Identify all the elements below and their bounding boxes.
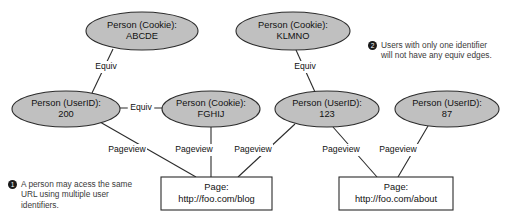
person-node-userid-87[interactable]: Person (UserID):87 [395, 91, 499, 127]
edge-label-pageview-87-about: Pageview [379, 144, 417, 154]
footnote-2: 2 Users with only one identifier will no… [368, 40, 496, 61]
footnote-1-marker: 1 [8, 180, 17, 189]
edge-label-equiv-abcde-200: Equiv [95, 61, 117, 71]
person-node-userid-200[interactable]: Person (UserID):200 [12, 91, 120, 127]
node-label-value: FGHIJ [198, 109, 225, 119]
footnote-1: 1 A person may acess the same URL using … [8, 179, 140, 210]
node-label-value: 200 [58, 109, 74, 119]
page-label-url: http://foo.com/blog [178, 194, 255, 204]
edge-label-pageview-200-blog: Pageview [108, 144, 146, 154]
footnote-2-marker: 2 [368, 41, 377, 50]
page-node-page-about[interactable]: Page:http://foo.com/about [339, 177, 453, 210]
person-node-cookie-klmno[interactable]: Person (Cookie):KLMNO [236, 12, 350, 50]
person-node-cookie-fghij[interactable]: Person (Cookie):FGHIJ [162, 91, 260, 127]
person-node-cookie-abcde[interactable]: Person (Cookie):ABCDE [86, 12, 198, 50]
footnote-2-text: Users with only one identifier will not … [381, 40, 496, 61]
node-label-type: Person (Cookie): [107, 20, 177, 30]
edge-label-pageview-123-about: Pageview [322, 144, 360, 154]
node-label-value: 123 [319, 109, 335, 119]
page-node-page-blog[interactable]: Page:http://foo.com/blog [161, 177, 272, 210]
footnote-1-text: A person may acess the same URL using mu… [21, 179, 140, 210]
page-label-type: Page: [384, 182, 408, 192]
node-label-type: Person (Cookie): [176, 98, 246, 108]
node-label-value: KLMNO [276, 31, 309, 41]
node-label-type: Person (Cookie): [258, 20, 328, 30]
page-label-type: Page: [204, 182, 228, 192]
node-label-type: Person (UserID): [31, 98, 101, 108]
node-label-value: ABCDE [126, 31, 158, 41]
node-label-type: Person (UserID): [292, 98, 362, 108]
node-label-type: Person (UserID): [412, 98, 482, 108]
node-label-value: 87 [442, 109, 452, 119]
edge-label-pageview-123-blog: Pageview [234, 144, 272, 154]
edge-label-equiv-200-fghij: Equiv [130, 102, 152, 112]
diagram-canvas: Person (Cookie):ABCDEPerson (Cookie):KLM… [0, 0, 515, 219]
edge-label-equiv-klmno-123: Equiv [294, 61, 316, 71]
person-node-userid-123[interactable]: Person (UserID):123 [275, 91, 379, 127]
edge-label-pageview-fghij-blog: Pageview [175, 144, 213, 154]
page-label-url: http://foo.com/about [355, 194, 438, 204]
